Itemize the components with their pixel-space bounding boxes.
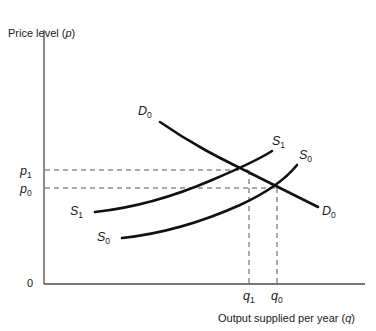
curve-label-demand-left: D0 <box>138 104 152 120</box>
x-axis-title: Output supplied per year (q) <box>218 312 355 324</box>
demand-curve-d0 <box>160 122 318 207</box>
curve-label-demand-right: D0 <box>322 204 336 220</box>
y-tick-label-p0: p0 <box>19 182 32 198</box>
origin-label: 0 <box>27 277 33 289</box>
y-axis-title: Price level (p) <box>8 27 75 39</box>
curve-label-supply0-right: S0 <box>299 148 312 164</box>
curve-label-supply1-left: S1 <box>70 204 83 220</box>
supply-demand-figure: Price level (p) 0 p1 p0 q1 q0 D0 D0 <box>0 0 376 331</box>
x-tick-label-q0: q0 <box>271 289 283 305</box>
chart-canvas: Price level (p) 0 p1 p0 q1 q0 D0 D0 <box>0 0 376 331</box>
curve-label-supply0-left: S0 <box>97 230 110 246</box>
x-tick-label-q1: q1 <box>243 289 255 305</box>
y-tick-label-p1: p1 <box>19 164 32 180</box>
curve-label-supply1-right: S1 <box>272 134 285 150</box>
